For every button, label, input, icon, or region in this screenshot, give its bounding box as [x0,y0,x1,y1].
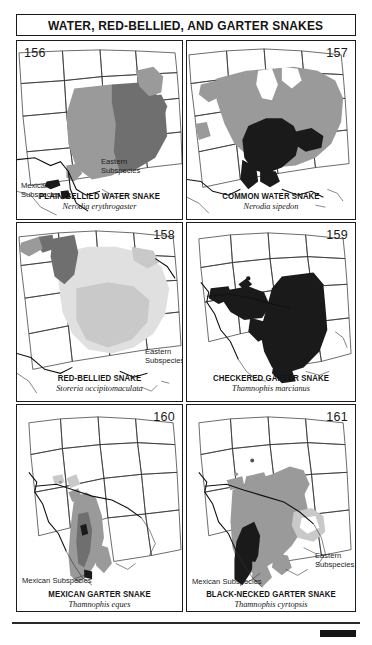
label-line-2: Subspecies [315,560,354,569]
field-guide-page: WATER, RED-BELLIED, AND GARTER SNAKES [0,0,372,645]
map-panel-161[interactable]: 161 Mexican Subspecies Eastern Subspecie… [186,404,356,612]
panel-number-157: 157 [326,46,348,60]
label-line-1: Eastern [145,347,183,356]
map-grid: 156 Eastern Subspecies Mexican Subspecie… [16,40,356,613]
panel-number-158: 158 [153,228,175,242]
label-line-1: Mexican [21,181,60,190]
common-name-156: PLAIN-BELLIED WATER SNAKE [22,191,177,201]
panel-number-160: 160 [153,410,175,424]
caption-161: BLACK-NECKED GARTER SNAKE Thamnophis cyr… [187,589,355,610]
map-label-mexican-subspecies-161: Mexican Subspecies [192,577,262,586]
scientific-name-159: Thamnophis marcianus [187,384,355,394]
caption-160: MEXICAN GARTER SNAKE Thamnophis eques [17,589,182,610]
map-panel-157[interactable]: 157 COMMON WATER SNAKE Nerodia sipedon [186,40,356,220]
caption-158: RED-BELLIED SNAKE Storeria occipitomacul… [17,373,182,394]
label-line-2: Subspecies [145,356,183,365]
common-name-158: RED-BELLIED SNAKE [22,373,177,383]
footer-divider [12,622,360,624]
scientific-name-158: Storeria occipitomaculata [17,384,182,394]
caption-159: CHECKERED GARTER SNAKE Thamnophis marcia… [187,373,355,394]
map-label-eastern-subspecies-161: Eastern Subspecies [315,551,354,570]
scientific-name-161: Thamnophis cyrtopsis [187,600,355,610]
label-line-2: Subspecies [101,166,140,175]
common-name-157: COMMON WATER SNAKE [192,191,350,201]
common-name-161: BLACK-NECKED GARTER SNAKE [192,589,350,599]
caption-156: PLAIN-BELLIED WATER SNAKE Nerodia erythr… [17,191,182,212]
scientific-name-157: Nerodia sipedon [187,202,355,212]
map-label-eastern-subspecies-156: Eastern Subspecies [101,157,140,176]
map-label-eastern-subspecies-158: Eastern Subspecies [145,347,183,366]
scientific-name-156: Nerodia erythrogaster [17,202,182,212]
common-name-160: MEXICAN GARTER SNAKE [22,589,177,599]
map-panel-159[interactable]: 159 CHECKERED GARTER SNAKE Thamnophis ma… [186,222,356,402]
map-label-mexican-subspecies-160: Mexican Subspecies [22,576,92,585]
panel-number-156: 156 [24,46,46,60]
label-line-1: Mexican Subspecies [192,577,262,586]
panel-number-161: 161 [326,410,348,424]
common-name-159: CHECKERED GARTER SNAKE [192,373,350,383]
map-panel-160[interactable]: 160 Mexican Subspecies MEXICAN GARTER SN… [16,404,183,612]
page-tab-marker [320,630,356,637]
label-line-1: Mexican Subspecies [22,576,92,585]
label-line-1: Eastern [101,157,140,166]
page-title: WATER, RED-BELLIED, AND GARTER SNAKES [48,18,323,33]
caption-157: COMMON WATER SNAKE Nerodia sipedon [187,191,355,212]
map-panel-158[interactable]: 158 Eastern Subspecies RED-BELLIED SNAKE… [16,222,183,402]
map-panel-156[interactable]: 156 Eastern Subspecies Mexican Subspecie… [16,40,183,220]
panel-number-159: 159 [326,228,348,242]
label-line-1: Eastern [315,551,354,560]
page-title-box: WATER, RED-BELLIED, AND GARTER SNAKES [16,14,356,36]
scientific-name-160: Thamnophis eques [17,600,182,610]
